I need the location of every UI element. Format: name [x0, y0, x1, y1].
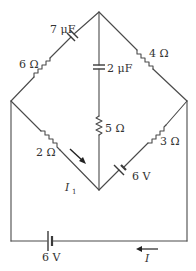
label-current-i1: I [64, 181, 70, 194]
battery-6v-outer [48, 231, 52, 251]
label-2ohm: 2 Ω [36, 146, 56, 159]
label-current-i1-subscript: 1 [72, 188, 76, 196]
label-6v-outer: 6 V [42, 251, 61, 264]
label-7uf: 7 μF [50, 23, 76, 36]
label-6v-inner: 6 V [132, 170, 151, 183]
label-6ohm: 6 Ω [19, 58, 39, 71]
resistor-5-ohm [96, 116, 102, 135]
label-3ohm: 3 Ω [160, 135, 180, 148]
current-arrow-i1 [70, 149, 86, 164]
branch-middle [93, 12, 105, 190]
circuit-diagram: 7 μF 6 Ω 4 Ω 2 μF 5 Ω 2 Ω 3 Ω 6 V 6 V I … [0, 0, 196, 271]
branch-top-right [99, 12, 187, 101]
label-4ohm: 4 Ω [149, 47, 169, 60]
label-current-i: I [144, 252, 150, 265]
label-5ohm: 5 Ω [105, 122, 125, 135]
capacitor-2uf [93, 65, 105, 69]
label-2uf: 2 μF [107, 62, 133, 75]
